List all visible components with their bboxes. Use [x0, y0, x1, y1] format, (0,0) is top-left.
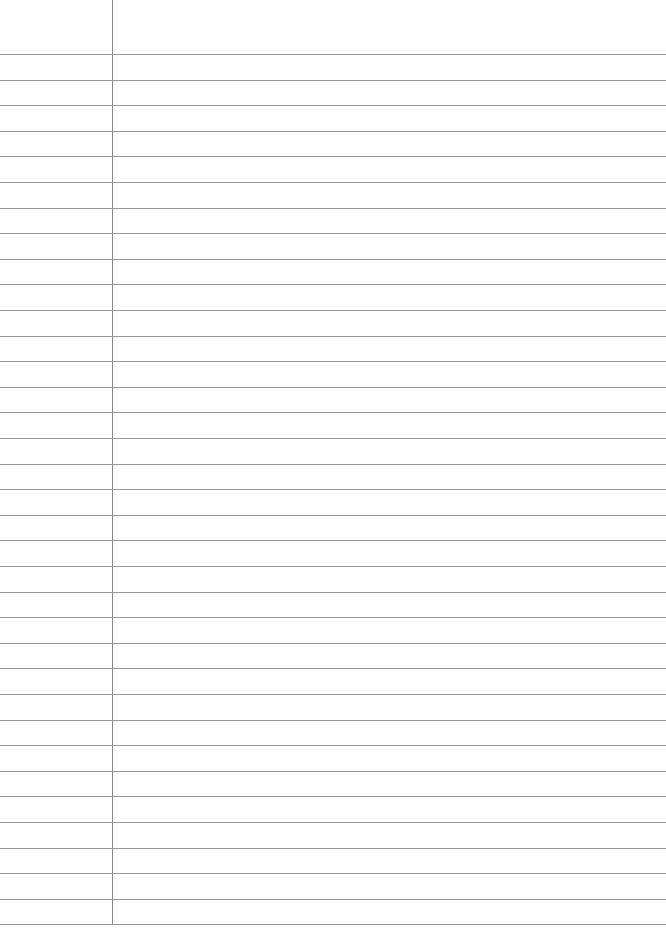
- ruled-line: [0, 592, 666, 593]
- ruled-line: [0, 566, 666, 567]
- ruled-line: [0, 848, 666, 849]
- ruled-line: [0, 771, 666, 772]
- ruled-line: [0, 54, 666, 55]
- ruled-line: [0, 80, 666, 81]
- ruled-line: [0, 361, 666, 362]
- ruled-line: [0, 208, 666, 209]
- ruled-line: [0, 822, 666, 823]
- ruled-line: [0, 336, 666, 337]
- ruled-line: [0, 924, 666, 925]
- ruled-line: [0, 131, 666, 132]
- ruled-line: [0, 745, 666, 746]
- vertical-margin-line: [112, 0, 113, 925]
- ruled-line: [0, 515, 666, 516]
- ruled-line: [0, 310, 666, 311]
- ruled-line: [0, 259, 666, 260]
- ruled-line: [0, 412, 666, 413]
- ruled-line: [0, 694, 666, 695]
- ruled-line: [0, 540, 666, 541]
- ruled-line: [0, 796, 666, 797]
- ruled-paper-page: [0, 0, 666, 929]
- ruled-line: [0, 873, 666, 874]
- ruled-line: [0, 156, 666, 157]
- ruled-line: [0, 668, 666, 669]
- ruled-line: [0, 233, 666, 234]
- ruled-line: [0, 438, 666, 439]
- ruled-line: [0, 284, 666, 285]
- ruled-line: [0, 643, 666, 644]
- ruled-line: [0, 182, 666, 183]
- ruled-line: [0, 617, 666, 618]
- ruled-line: [0, 464, 666, 465]
- ruled-line: [0, 489, 666, 490]
- ruled-line: [0, 105, 666, 106]
- ruled-line: [0, 899, 666, 900]
- ruled-line: [0, 720, 666, 721]
- ruled-line: [0, 387, 666, 388]
